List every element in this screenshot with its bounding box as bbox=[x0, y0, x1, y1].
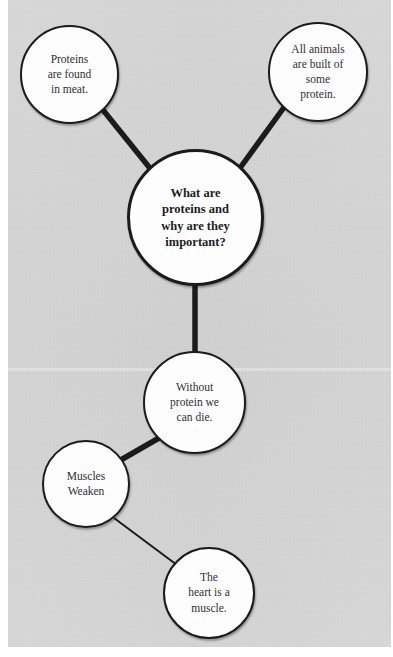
node-label: What are proteins and why are they impor… bbox=[152, 185, 239, 251]
concept-map-canvas: Proteins are found in meat. All animals … bbox=[0, 0, 393, 657]
node-all-animals-protein[interactable]: All animals are built of some protein. bbox=[268, 22, 368, 122]
node-label: All animals are built of some protein. bbox=[282, 42, 353, 103]
node-label: The heart is a muscle. bbox=[179, 570, 239, 616]
node-without-protein-die[interactable]: Without protein we can die. bbox=[143, 351, 246, 454]
edge-muscles-heart bbox=[114, 518, 181, 568]
node-central-question[interactable]: What are proteins and why are they impor… bbox=[127, 149, 264, 286]
node-proteins-in-meat[interactable]: Proteins are found in meat. bbox=[20, 25, 119, 124]
node-label: Without protein we can die. bbox=[161, 380, 228, 426]
node-heart-is-muscle[interactable]: The heart is a muscle. bbox=[163, 547, 255, 639]
node-muscles-weaken[interactable]: Muscles Weaken bbox=[42, 440, 130, 528]
edge-proteins-central bbox=[103, 110, 153, 172]
edge-without-muscles bbox=[119, 438, 159, 461]
node-label: Proteins are found in meat. bbox=[39, 52, 101, 98]
edge-animals-central bbox=[240, 106, 285, 168]
node-label: Muscles Weaken bbox=[58, 469, 114, 499]
